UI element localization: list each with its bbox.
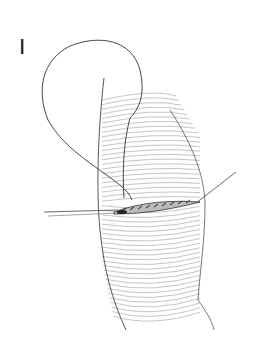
suture-thread-loop <box>42 40 142 200</box>
needle-entry-point <box>117 210 127 214</box>
suture-thread-right-end <box>196 172 236 203</box>
suture-illustration <box>0 0 253 349</box>
tissue-outline-left <box>98 78 126 330</box>
